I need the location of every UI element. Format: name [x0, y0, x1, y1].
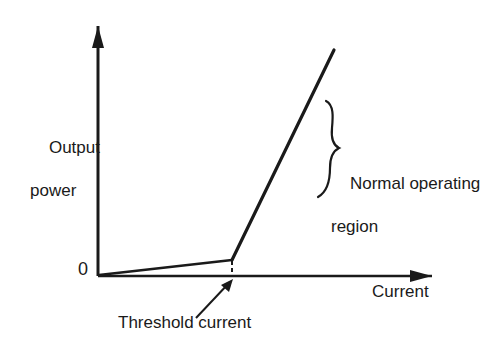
y-axis-label-line2: power [30, 180, 100, 201]
y-axis-label: Output power [30, 116, 100, 244]
origin-label: 0 [78, 258, 88, 281]
normal-operating-region-label-line2: region [331, 216, 480, 237]
laser-light-current-diagram: Output power 0 Current Normal operating … [0, 0, 501, 348]
normal-operating-region-label: Normal operating region [331, 152, 480, 280]
x-axis-label: Current [372, 281, 429, 302]
y-axis-label-line1: Output [49, 138, 100, 157]
normal-operating-region-label-line1: Normal operating [350, 174, 480, 193]
threshold-current-label: Threshold current [118, 312, 251, 333]
light-current-curve [99, 50, 334, 275]
